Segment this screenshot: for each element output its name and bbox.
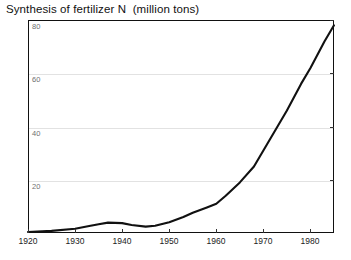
y-axis-tick-mark-60 — [330, 73, 334, 74]
fertilizer-nitrogen-line-chart: Synthesis of fertilizer N (million tons)… — [0, 0, 351, 260]
y-axis-tick-mark-80 — [330, 20, 334, 21]
chart-title: Synthesis of fertilizer N (million tons) — [6, 2, 199, 16]
y-axis-tick-mark-40 — [330, 127, 334, 128]
x-axis-tick-label-1980: 1980 — [301, 236, 320, 246]
x-axis-tick-mark-1920 — [28, 229, 29, 233]
x-axis-tick-mark-1930 — [75, 229, 76, 233]
series-layer — [28, 20, 334, 233]
x-axis-tick-label-1940: 1940 — [113, 236, 132, 246]
x-axis-tick-label-1950: 1950 — [160, 236, 179, 246]
y-axis-tick-mark-20 — [330, 180, 334, 181]
x-axis-tick-label-1930: 1930 — [66, 236, 85, 246]
x-axis-tick-label-1970: 1970 — [254, 236, 273, 246]
x-axis-tick-label-1960: 1960 — [207, 236, 226, 246]
x-axis-tick-mark-1940 — [122, 229, 123, 233]
x-axis-tick-label-1920: 1920 — [19, 236, 38, 246]
series-line-synthesis-of-fertilizer-n — [28, 25, 334, 232]
x-axis-tick-mark-1950 — [169, 229, 170, 233]
x-axis-tick-mark-1970 — [263, 229, 264, 233]
x-axis-tick-mark-1980 — [310, 229, 311, 233]
x-axis-tick-mark-1960 — [216, 229, 217, 233]
